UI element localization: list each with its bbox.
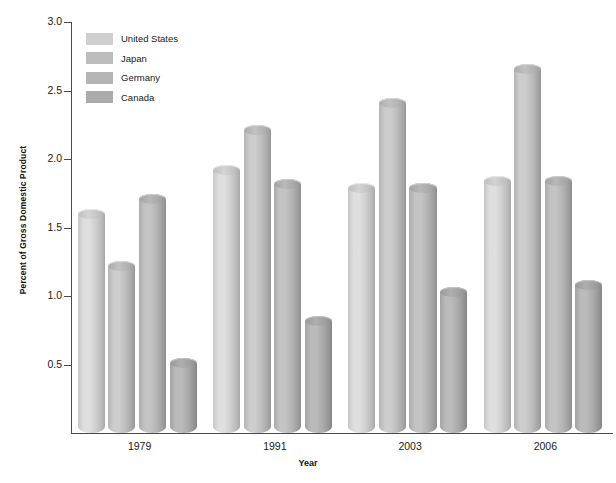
bar-cap xyxy=(274,179,301,189)
bar-cap xyxy=(348,183,375,193)
legend-item: Canada xyxy=(86,88,178,108)
bar-germany-1991[interactable] xyxy=(274,179,301,433)
bar-cap xyxy=(170,358,197,368)
legend-item: Germany xyxy=(86,68,178,88)
bar-cap xyxy=(78,209,105,219)
bar-japan-2003[interactable] xyxy=(379,98,406,433)
x-axis-group-label-1991: 1991 xyxy=(207,440,342,452)
legend-label-germany: Germany xyxy=(121,72,160,83)
legend-label-japan: Japan xyxy=(121,53,147,64)
legend-swatch-united-states xyxy=(86,33,113,45)
bar-body xyxy=(213,170,240,433)
bar-body xyxy=(139,199,166,433)
bar-cap xyxy=(213,165,240,175)
y-axis-tick xyxy=(64,22,72,23)
bar-united-states-2006[interactable] xyxy=(484,176,511,433)
bar-body xyxy=(409,188,436,433)
bar-cap xyxy=(409,183,436,193)
bar-cap xyxy=(514,64,541,74)
y-axis-tick-label: 0.5 xyxy=(0,358,62,370)
y-axis-tick xyxy=(64,228,72,229)
bar-united-states-2003[interactable] xyxy=(348,183,375,433)
y-axis-tick xyxy=(64,296,72,297)
bar-body xyxy=(575,285,602,433)
bar-body xyxy=(348,188,375,433)
bar-germany-2003[interactable] xyxy=(409,183,436,433)
chart-container: Percent of Gross Domestic Product 0.51.0… xyxy=(0,0,616,483)
bar-body xyxy=(305,321,332,433)
bar-body xyxy=(108,266,135,433)
bar-body xyxy=(274,184,301,433)
y-axis-tick xyxy=(64,365,72,366)
bar-cap xyxy=(545,176,572,186)
bar-cap xyxy=(484,176,511,186)
bar-germany-1979[interactable] xyxy=(139,194,166,433)
bar-cap xyxy=(440,287,467,297)
x-axis-group-label-2006: 2006 xyxy=(478,440,613,452)
bar-canada-1979[interactable] xyxy=(170,358,197,433)
bar-canada-1991[interactable] xyxy=(305,316,332,433)
bar-cap xyxy=(379,98,406,108)
bar-canada-2003[interactable] xyxy=(440,287,467,433)
y-axis-tick-label: 1.5 xyxy=(0,221,62,233)
bar-japan-1991[interactable] xyxy=(244,125,271,433)
y-axis-tick xyxy=(64,91,72,92)
bar-cap xyxy=(305,316,332,326)
x-axis-line xyxy=(71,433,613,434)
legend-label-united-states: United States xyxy=(121,33,178,44)
bar-body xyxy=(78,214,105,433)
bar-cap xyxy=(139,194,166,204)
legend-item: United States xyxy=(86,29,178,49)
bar-united-states-1979[interactable] xyxy=(78,209,105,433)
bar-united-states-1991[interactable] xyxy=(213,165,240,433)
bar-cap xyxy=(108,261,135,271)
legend-swatch-japan xyxy=(86,52,113,64)
legend-swatch-germany xyxy=(86,72,113,84)
bar-body xyxy=(484,181,511,433)
bar-canada-2006[interactable] xyxy=(575,280,602,433)
x-axis-group-label-2003: 2003 xyxy=(343,440,478,452)
x-axis-title: Year xyxy=(0,458,616,468)
bar-germany-2006[interactable] xyxy=(545,176,572,433)
bar-japan-1979[interactable] xyxy=(108,261,135,433)
bar-body xyxy=(170,363,197,433)
y-axis-tick-label: 2.0 xyxy=(0,152,62,164)
bar-body xyxy=(379,103,406,433)
y-axis-tick xyxy=(64,159,72,160)
y-axis-tick-label: 2.5 xyxy=(0,84,62,96)
legend-item: Japan xyxy=(86,49,178,69)
bar-body xyxy=(545,181,572,433)
bar-body xyxy=(440,292,467,433)
x-axis-group-label-1979: 1979 xyxy=(72,440,207,452)
legend-swatch-canada xyxy=(86,91,113,103)
y-axis-tick-label: 1.0 xyxy=(0,289,62,301)
bar-body xyxy=(244,130,271,433)
y-axis-tick-label: 3.0 xyxy=(0,15,62,27)
bar-japan-2006[interactable] xyxy=(514,64,541,433)
legend-label-canada: Canada xyxy=(121,92,154,103)
bar-body xyxy=(514,69,541,433)
chart-legend: United States Japan Germany Canada xyxy=(86,29,178,107)
